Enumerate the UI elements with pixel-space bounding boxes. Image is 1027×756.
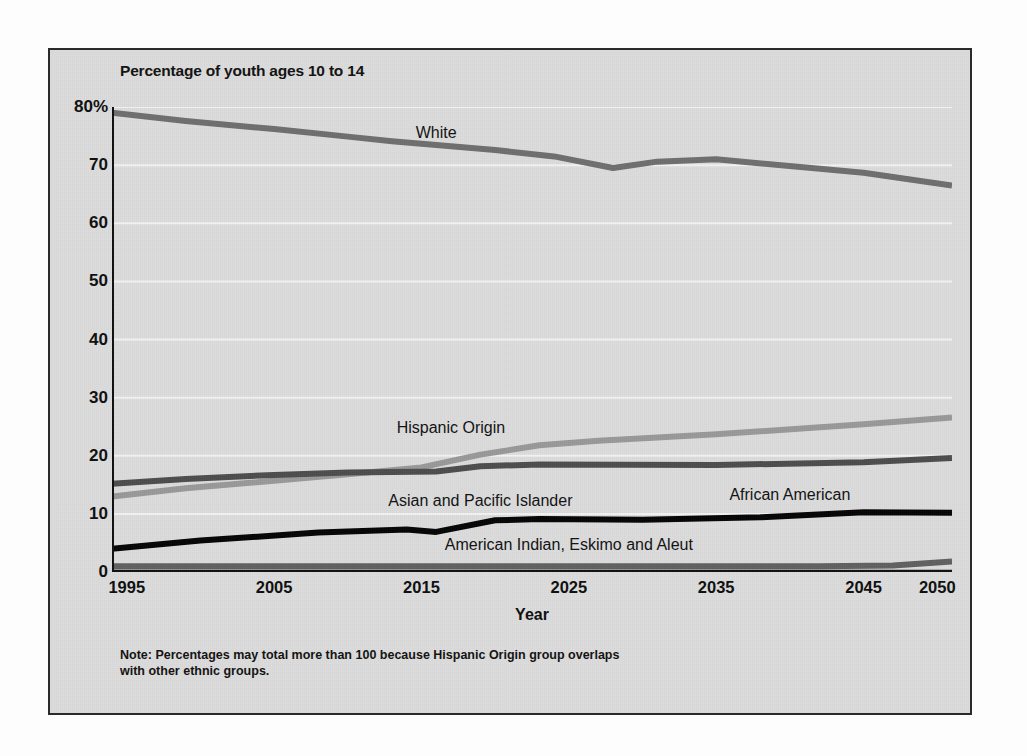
series-label-african-american: African American bbox=[729, 486, 850, 504]
y-axis-tick-labels: 01020304050607080% bbox=[50, 107, 108, 572]
series-line-african-american bbox=[112, 458, 952, 484]
series-line-white bbox=[112, 113, 952, 186]
x-tick-label-1995: 1995 bbox=[108, 578, 145, 597]
x-tick-label-2015: 2015 bbox=[403, 578, 440, 597]
plot-area: WhiteHispanic OriginAfrican AmericanAsia… bbox=[112, 107, 952, 572]
chart-title: Percentage of youth ages 10 to 14 bbox=[120, 62, 364, 80]
series-line-hispanic-origin bbox=[112, 417, 952, 496]
series-label-hispanic-origin: Hispanic Origin bbox=[397, 419, 505, 437]
x-tick-label-2050: 2050 bbox=[919, 578, 956, 597]
y-tick-label-70: 70 bbox=[52, 155, 108, 175]
x-axis-title: Year bbox=[112, 606, 952, 624]
y-tick-label-40: 40 bbox=[52, 330, 108, 350]
chart-figure-frame: Percentage of youth ages 10 to 14 010203… bbox=[48, 48, 972, 715]
x-tick-label-2045: 2045 bbox=[845, 578, 882, 597]
y-tick-label-10: 10 bbox=[52, 504, 108, 524]
chart-note-line-2: with other ethnic groups. bbox=[120, 664, 820, 680]
y-tick-label-20: 20 bbox=[52, 446, 108, 466]
series-label-white: White bbox=[416, 124, 457, 142]
x-tick-label-2005: 2005 bbox=[256, 578, 293, 597]
y-tick-label-50: 50 bbox=[52, 271, 108, 291]
x-tick-label-2035: 2035 bbox=[698, 578, 735, 597]
series-label-asian-and-pacific-islander: Asian and Pacific Islander bbox=[388, 492, 572, 510]
series-label-american-indian-eskimo-and-aleut: American Indian, Eskimo and Aleut bbox=[445, 536, 693, 554]
x-axis-tick-labels: 1995200520152025203520452050 bbox=[112, 578, 952, 602]
chart-note-line-1: Note: Percentages may total more than 10… bbox=[120, 648, 820, 664]
series-line-american-indian-eskimo-and-aleut bbox=[112, 562, 952, 567]
y-tick-label-80pct: 80% bbox=[52, 97, 108, 117]
figure-page: Percentage of youth ages 10 to 14 010203… bbox=[0, 0, 1027, 756]
x-tick-label-2025: 2025 bbox=[550, 578, 587, 597]
chart-note: Note: Percentages may total more than 10… bbox=[120, 648, 820, 679]
y-tick-label-60: 60 bbox=[52, 213, 108, 233]
y-tick-label-30: 30 bbox=[52, 388, 108, 408]
y-tick-label-0: 0 bbox=[52, 562, 108, 582]
